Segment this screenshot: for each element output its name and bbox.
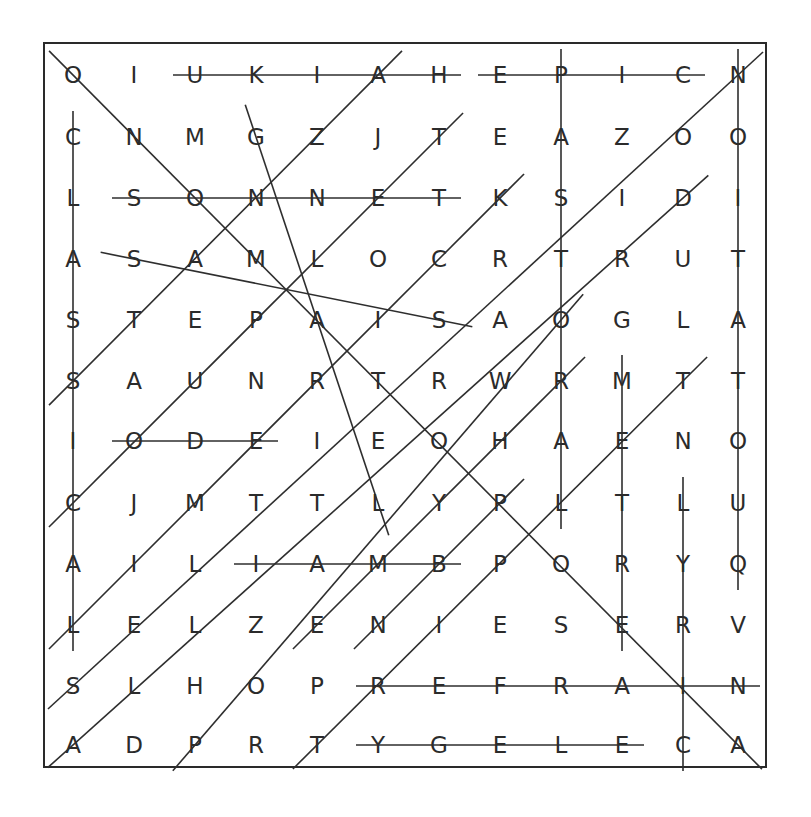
grid-cell[interactable]: Z <box>602 117 642 157</box>
grid-cell[interactable]: T <box>358 361 398 401</box>
grid-cell[interactable]: V <box>718 605 758 645</box>
grid-cell[interactable]: U <box>175 361 215 401</box>
grid-cell[interactable]: N <box>114 117 154 157</box>
grid-cell[interactable]: Z <box>236 605 276 645</box>
grid-cell[interactable]: P <box>175 725 215 765</box>
grid-cell[interactable]: O <box>541 300 581 340</box>
grid-cell[interactable]: L <box>114 666 154 706</box>
grid-cell[interactable]: L <box>541 725 581 765</box>
grid-cell[interactable]: B <box>419 544 459 584</box>
grid-cell[interactable]: A <box>480 300 520 340</box>
grid-cell[interactable]: S <box>53 300 93 340</box>
grid-cell[interactable]: P <box>541 55 581 95</box>
grid-cell[interactable]: T <box>419 117 459 157</box>
grid-cell[interactable]: R <box>541 361 581 401</box>
grid-cell[interactable]: E <box>480 55 520 95</box>
grid-cell[interactable]: N <box>718 666 758 706</box>
grid-cell[interactable]: H <box>175 666 215 706</box>
grid-cell[interactable]: A <box>53 725 93 765</box>
grid-cell[interactable]: L <box>53 605 93 645</box>
grid-cell[interactable]: H <box>480 421 520 461</box>
grid-cell[interactable]: E <box>480 725 520 765</box>
grid-cell[interactable]: I <box>358 300 398 340</box>
grid-cell[interactable]: S <box>541 178 581 218</box>
grid-cell[interactable]: L <box>175 605 215 645</box>
grid-cell[interactable]: I <box>114 55 154 95</box>
grid-cell[interactable]: E <box>236 421 276 461</box>
grid-cell[interactable]: J <box>358 117 398 157</box>
grid-cell[interactable]: I <box>419 605 459 645</box>
grid-cell[interactable]: L <box>53 178 93 218</box>
grid-cell[interactable]: E <box>602 725 642 765</box>
grid-cell[interactable]: I <box>53 421 93 461</box>
grid-cell[interactable]: E <box>602 421 642 461</box>
grid-cell[interactable]: U <box>663 239 703 279</box>
grid-cell[interactable]: U <box>718 483 758 523</box>
grid-cell[interactable]: M <box>236 239 276 279</box>
grid-cell[interactable]: T <box>114 300 154 340</box>
grid-cell[interactable]: I <box>114 544 154 584</box>
grid-cell[interactable]: C <box>53 483 93 523</box>
grid-cell[interactable]: S <box>541 605 581 645</box>
grid-cell[interactable]: A <box>602 666 642 706</box>
grid-cell[interactable]: Y <box>358 725 398 765</box>
grid-cell[interactable]: T <box>297 725 337 765</box>
grid-cell[interactable]: J <box>114 483 154 523</box>
grid-cell[interactable]: R <box>297 361 337 401</box>
grid-cell[interactable]: O <box>419 421 459 461</box>
grid-cell[interactable]: E <box>175 300 215 340</box>
grid-cell[interactable]: N <box>663 421 703 461</box>
grid-cell[interactable]: T <box>602 483 642 523</box>
grid-cell[interactable]: A <box>718 725 758 765</box>
grid-cell[interactable]: C <box>663 55 703 95</box>
grid-cell[interactable]: O <box>541 544 581 584</box>
grid-cell[interactable]: S <box>419 300 459 340</box>
grid-cell[interactable]: N <box>358 605 398 645</box>
grid-cell[interactable]: C <box>419 239 459 279</box>
grid-cell[interactable]: Q <box>718 544 758 584</box>
grid-cell[interactable]: E <box>419 666 459 706</box>
grid-cell[interactable]: R <box>602 239 642 279</box>
grid-cell[interactable]: M <box>175 483 215 523</box>
grid-cell[interactable]: E <box>297 605 337 645</box>
grid-cell[interactable]: D <box>114 725 154 765</box>
grid-cell[interactable]: P <box>480 483 520 523</box>
grid-cell[interactable]: I <box>663 666 703 706</box>
grid-cell[interactable]: P <box>480 544 520 584</box>
grid-cell[interactable]: E <box>480 117 520 157</box>
grid-cell[interactable]: N <box>718 55 758 95</box>
grid-cell[interactable]: A <box>114 361 154 401</box>
grid-cell[interactable]: A <box>358 55 398 95</box>
grid-cell[interactable]: M <box>602 361 642 401</box>
grid-cell[interactable]: A <box>541 117 581 157</box>
grid-cell[interactable]: O <box>175 178 215 218</box>
grid-cell[interactable]: R <box>602 544 642 584</box>
grid-cell[interactable]: E <box>480 605 520 645</box>
grid-cell[interactable]: C <box>53 117 93 157</box>
grid-cell[interactable]: S <box>114 239 154 279</box>
grid-cell[interactable]: O <box>236 666 276 706</box>
grid-cell[interactable]: N <box>236 361 276 401</box>
grid-cell[interactable]: O <box>358 239 398 279</box>
grid-cell[interactable]: G <box>419 725 459 765</box>
grid-cell[interactable]: L <box>541 483 581 523</box>
grid-cell[interactable]: R <box>358 666 398 706</box>
grid-cell[interactable]: C <box>663 725 703 765</box>
grid-cell[interactable]: L <box>663 483 703 523</box>
grid-cell[interactable]: I <box>297 55 337 95</box>
grid-cell[interactable]: E <box>114 605 154 645</box>
grid-cell[interactable]: S <box>53 666 93 706</box>
grid-cell[interactable]: I <box>602 178 642 218</box>
grid-cell[interactable]: T <box>419 178 459 218</box>
grid-cell[interactable]: A <box>53 239 93 279</box>
grid-cell[interactable]: T <box>718 361 758 401</box>
grid-cell[interactable]: A <box>541 421 581 461</box>
grid-cell[interactable]: R <box>480 239 520 279</box>
grid-cell[interactable]: D <box>663 178 703 218</box>
grid-cell[interactable]: E <box>602 605 642 645</box>
grid-cell[interactable]: S <box>114 178 154 218</box>
grid-cell[interactable]: I <box>236 544 276 584</box>
grid-cell[interactable]: W <box>480 361 520 401</box>
grid-cell[interactable]: H <box>419 55 459 95</box>
grid-cell[interactable]: O <box>718 117 758 157</box>
